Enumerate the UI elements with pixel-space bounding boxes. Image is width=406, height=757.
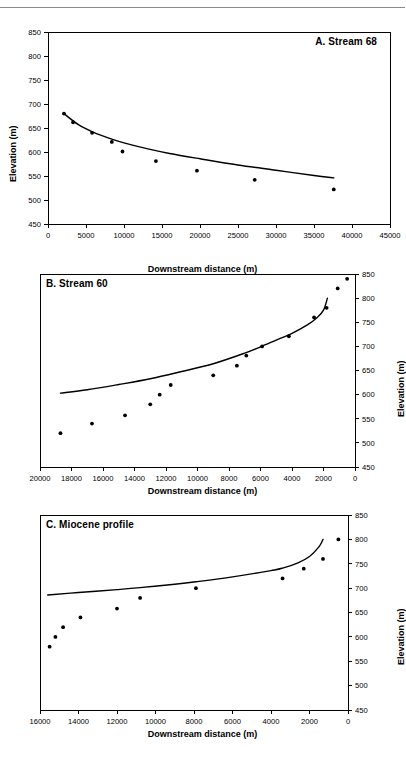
- x-tick-label: 30000: [265, 231, 286, 240]
- chart-b-x-axis-title: Downstream distance (m): [0, 486, 405, 496]
- y-tick-label: 550: [355, 657, 368, 666]
- x-tick-label: 2000: [315, 474, 332, 483]
- y-tick-label: 800: [362, 294, 375, 303]
- data-point: [332, 188, 336, 192]
- chart-c-y-axis-title: Elevation (m): [396, 608, 406, 665]
- chart-b-y-axis-title: Elevation (m): [396, 360, 406, 417]
- y-tick-label: 650: [355, 608, 368, 617]
- y-tick-label: 600: [28, 148, 41, 157]
- x-tick-label: 14000: [124, 474, 145, 483]
- data-point: [138, 596, 142, 600]
- chart-a-plot: 4505005506006507007508008500500010000150…: [0, 22, 405, 260]
- x-tick-label: 18000: [61, 474, 82, 483]
- data-point: [48, 645, 52, 649]
- x-tick-label: 35000: [303, 231, 324, 240]
- y-tick-label: 700: [28, 100, 41, 109]
- y-tick-label: 650: [362, 366, 375, 375]
- x-tick-label: 12000: [106, 717, 127, 726]
- data-point: [123, 413, 127, 417]
- data-point: [336, 537, 340, 541]
- y-tick-label: 750: [355, 560, 368, 569]
- data-point: [90, 422, 94, 426]
- chart-c-title: C. Miocene profile: [46, 519, 134, 530]
- x-tick-label: 10000: [145, 717, 166, 726]
- chart-c-x-axis-title: Downstream distance (m): [0, 729, 405, 739]
- data-point: [194, 586, 198, 590]
- data-point: [61, 625, 65, 629]
- y-tick-label: 500: [28, 196, 41, 205]
- data-point: [154, 159, 158, 163]
- y-tick-label: 800: [355, 535, 368, 544]
- data-point-group: [48, 537, 341, 648]
- chart-b-title: B. Stream 60: [46, 278, 108, 289]
- y-tick-label: 550: [362, 415, 375, 424]
- data-point: [169, 383, 173, 387]
- data-point: [54, 635, 58, 639]
- data-point: [148, 402, 152, 406]
- data-point: [253, 178, 257, 182]
- y-tick-label: 500: [355, 681, 368, 690]
- y-tick-label: 700: [355, 584, 368, 593]
- x-tick-label: 8000: [221, 474, 238, 483]
- x-tick-label: 45000: [379, 231, 400, 240]
- data-point: [59, 431, 63, 435]
- x-tick-label: 14000: [68, 717, 89, 726]
- data-point-group: [62, 112, 336, 192]
- data-point: [281, 576, 285, 580]
- y-tick-label: 600: [362, 390, 375, 399]
- x-tick-label: 4000: [263, 717, 280, 726]
- chart-a-y-axis-title: Elevation (m): [8, 125, 18, 182]
- data-point: [121, 150, 125, 154]
- data-point-group: [59, 277, 349, 435]
- data-point: [321, 557, 325, 561]
- data-point: [235, 364, 239, 368]
- x-tick-label: 0: [346, 717, 350, 726]
- chart-c-plot: 4505005506006507007508008501600014000120…: [0, 505, 405, 750]
- y-tick-label: 850: [362, 270, 375, 279]
- chart-panel-c: 4505005506006507007508008501600014000120…: [0, 505, 405, 750]
- x-tick-label: 10000: [187, 474, 208, 483]
- x-tick-label: 4000: [284, 474, 301, 483]
- chart-panel-a: 4505005506006507007508008500500010000150…: [0, 22, 405, 260]
- x-tick-label: 20000: [29, 474, 50, 483]
- x-tick-label: 8000: [186, 717, 203, 726]
- data-point: [345, 277, 349, 281]
- y-tick-label: 750: [28, 76, 41, 85]
- x-tick-label: 10000: [113, 231, 134, 240]
- x-tick-label: 15000: [151, 231, 172, 240]
- fitted-curve: [60, 298, 327, 393]
- top-divider-rule: [0, 7, 405, 8]
- data-point: [302, 567, 306, 571]
- x-tick-label: 40000: [341, 231, 362, 240]
- y-tick-label: 850: [28, 28, 41, 37]
- fitted-curve: [48, 539, 323, 595]
- y-tick-label: 450: [28, 220, 41, 229]
- data-point: [79, 615, 83, 619]
- y-tick-label: 450: [362, 463, 375, 472]
- data-point: [195, 169, 199, 173]
- x-tick-label: 0: [46, 231, 50, 240]
- x-tick-label: 6000: [224, 717, 241, 726]
- data-point: [115, 607, 119, 611]
- data-point: [158, 393, 162, 397]
- y-tick-label: 550: [28, 172, 41, 181]
- x-tick-label: 5000: [78, 231, 95, 240]
- chart-a-title: A. Stream 68: [315, 36, 377, 47]
- data-point: [110, 140, 114, 144]
- y-tick-label: 850: [355, 511, 368, 520]
- chart-panel-b: 4505005506006507007508008502000018000160…: [0, 262, 405, 500]
- data-point: [244, 354, 248, 358]
- y-tick-label: 750: [362, 318, 375, 327]
- y-tick-label: 450: [355, 706, 368, 715]
- data-point: [336, 287, 340, 291]
- chart-b-plot: 4505005506006507007508008502000018000160…: [0, 262, 405, 500]
- x-tick-label: 12000: [155, 474, 176, 483]
- data-point: [211, 373, 215, 377]
- x-tick-label: 25000: [227, 231, 248, 240]
- x-tick-label: 2000: [301, 717, 318, 726]
- x-tick-label: 0: [353, 474, 357, 483]
- y-tick-label: 800: [28, 52, 41, 61]
- x-tick-label: 20000: [189, 231, 210, 240]
- fitted-curve: [64, 114, 334, 178]
